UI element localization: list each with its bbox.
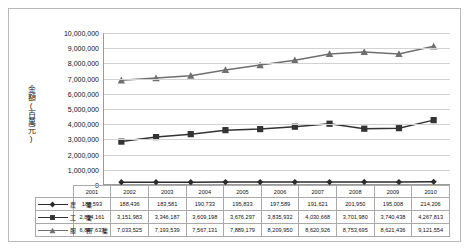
y-axis-tick-label: 8,000,000 <box>68 60 99 67</box>
table-value-cell: 3,740,438 <box>374 211 412 224</box>
table-year-header: 2003 <box>148 186 186 198</box>
table-value-cell: 3,701,980 <box>337 211 375 224</box>
data-point-marker <box>431 117 437 123</box>
data-point-marker <box>188 131 194 137</box>
legend-square-icon <box>49 214 56 221</box>
table-value-cell: 3,835,932 <box>261 211 299 224</box>
table-value-cell: 3,609,198 <box>186 211 224 224</box>
legend-cell: 農 業 <box>36 198 74 211</box>
table-year-header: 2004 <box>186 186 224 198</box>
table-year-header: 2007 <box>299 186 337 198</box>
y-axis-tick-label: 6,000,000 <box>68 90 99 97</box>
gridline <box>104 48 450 49</box>
table-value-cell: 8,621,436 <box>374 224 412 237</box>
y-axis-tick-labels: 10,000,0009,000,0008,000,0007,000,0006,0… <box>39 33 101 185</box>
data-table: 2001200220032004200520062007200820092010… <box>35 185 450 237</box>
table-value-cell: 197,589 <box>261 198 299 211</box>
legend-diamond-icon <box>49 201 56 208</box>
table-value-cell: 7,889,179 <box>224 224 262 237</box>
table-year-header: 2009 <box>374 186 412 198</box>
table-value-cell: 7,567,131 <box>186 224 224 237</box>
gridline <box>104 94 450 95</box>
legend-triangle-icon <box>49 227 56 234</box>
table-value-cell: 3,151,983 <box>111 211 149 224</box>
legend-cell: 服 務 業 <box>36 224 74 237</box>
y-axis-title: 金額(百萬元) <box>23 59 39 169</box>
table-value-cell: 8,209,950 <box>261 224 299 237</box>
table-year-header: 2006 <box>261 186 299 198</box>
data-point-marker <box>222 127 228 133</box>
table-row: 服 務 業6,887,6337,033,5257,193,5397,567,13… <box>36 224 450 237</box>
table-corner-cell <box>36 186 74 198</box>
chart-frame: 金額(百萬元) 10,000,0009,000,0008,000,0007,00… <box>8 8 461 242</box>
y-axis-tick-label: 5,000,000 <box>68 106 99 113</box>
y-axis-tick-label: 3,000,000 <box>68 136 99 143</box>
table-value-cell: 183,581 <box>148 198 186 211</box>
table-value-cell: 214,206 <box>412 198 450 211</box>
y-axis-tick-label: 2,000,000 <box>68 151 99 158</box>
legend-line-icon <box>38 227 68 234</box>
table-value-cell: 4,030,668 <box>299 211 337 224</box>
table-body: 農 業188,593188,436183,581190,733195,83319… <box>36 198 450 237</box>
y-axis-tick-label: 10,000,000 <box>64 30 99 37</box>
y-axis-tick-label: 1,000,000 <box>68 166 99 173</box>
table-year-header: 2008 <box>337 186 375 198</box>
table-value-cell: 8,753,695 <box>337 224 375 237</box>
table-year-header: 2002 <box>111 186 149 198</box>
table-year-header: 2001 <box>73 186 111 198</box>
table-value-cell: 195,008 <box>374 198 412 211</box>
gridline <box>104 124 450 125</box>
table-value-cell: 9,121,554 <box>412 224 450 237</box>
table-row: 農 業188,593188,436183,581190,733195,83319… <box>36 198 450 211</box>
table-value-cell: 8,620,926 <box>299 224 337 237</box>
y-axis-tick-label: 9,000,000 <box>68 45 99 52</box>
gridline <box>104 63 450 64</box>
data-point-marker <box>361 126 367 132</box>
data-point-marker <box>396 125 402 131</box>
table-value-cell: 195,833 <box>224 198 262 211</box>
legend-line-icon <box>38 201 68 208</box>
gridline <box>104 155 450 156</box>
table-value-cell: 191,621 <box>299 198 337 211</box>
legend-line-icon <box>38 214 68 221</box>
table-header-row: 2001200220032004200520062007200820092010 <box>36 186 450 198</box>
table-year-header: 2005 <box>224 186 262 198</box>
table-value-cell: 4,267,813 <box>412 211 450 224</box>
data-point-marker <box>431 179 437 185</box>
plot-area <box>103 33 450 185</box>
table-value-cell: 7,193,539 <box>148 224 186 237</box>
table-value-cell: 188,436 <box>111 198 149 211</box>
gridline <box>104 139 450 140</box>
data-point-marker <box>257 126 263 132</box>
gridline <box>104 170 450 171</box>
gridline <box>104 109 450 110</box>
y-axis-tick-label: 7,000,000 <box>68 75 99 82</box>
table-value-cell: 190,733 <box>186 198 224 211</box>
gridline <box>104 33 450 34</box>
y-axis-tick-label: 4,000,000 <box>68 121 99 128</box>
table-value-cell: 3,676,297 <box>224 211 262 224</box>
table-row: 工 業2,854,1613,151,9833,346,1873,609,1983… <box>36 211 450 224</box>
gridline <box>104 79 450 80</box>
table-value-cell: 7,033,525 <box>111 224 149 237</box>
table-value-cell: 201,950 <box>337 198 375 211</box>
table-year-header: 2010 <box>412 186 450 198</box>
legend-cell: 工 業 <box>36 211 74 224</box>
table-value-cell: 3,346,187 <box>148 211 186 224</box>
